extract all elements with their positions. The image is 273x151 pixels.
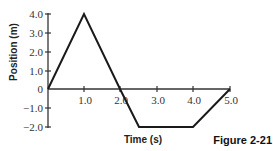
y-axis-title: Position (m) — [8, 23, 19, 81]
svg-text:3.0: 3.0 — [151, 94, 165, 106]
svg-text:4.0: 4.0 — [187, 94, 201, 106]
svg-text:1.0: 1.0 — [29, 65, 43, 77]
svg-text:0: 0 — [38, 83, 44, 95]
x-axis-title: Time (s) — [124, 134, 162, 145]
y-tick-labels: 4.0 3.0 2.0 1.0 0 −1.0 −2.0 — [23, 8, 43, 133]
svg-text:−1.0: −1.0 — [23, 102, 43, 114]
svg-text:2.0: 2.0 — [29, 46, 43, 58]
svg-text:3.0: 3.0 — [29, 27, 43, 39]
figure-label: Figure 2-21 — [213, 134, 272, 146]
svg-text:5.0: 5.0 — [224, 94, 238, 106]
position-line — [48, 14, 230, 127]
position-time-chart: 4.0 3.0 2.0 1.0 0 −1.0 −2.0 1.0 2.0 3.0 … — [0, 0, 273, 151]
svg-text:−2.0: −2.0 — [23, 121, 43, 133]
svg-text:1.0: 1.0 — [78, 94, 92, 106]
svg-text:4.0: 4.0 — [29, 8, 43, 20]
